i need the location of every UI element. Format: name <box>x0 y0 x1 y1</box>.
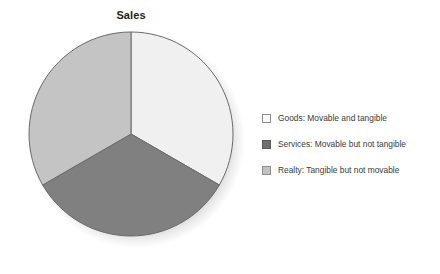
legend-item-realty[interactable]: Realty: Tangible but not movable <box>262 157 438 183</box>
legend-item-services[interactable]: Services: Movable but not tangible <box>262 131 438 157</box>
chart-legend: Goods: Movable and tangible Services: Mo… <box>262 105 438 183</box>
pie-svg <box>20 22 250 254</box>
legend-label-goods: Goods: Movable and tangible <box>278 113 387 124</box>
legend-label-realty: Realty: Tangible but not movable <box>278 165 399 176</box>
legend-item-goods[interactable]: Goods: Movable and tangible <box>262 105 438 131</box>
legend-swatch-goods-icon <box>262 114 271 123</box>
pie-slice-group <box>29 32 233 236</box>
legend-swatch-services-icon <box>262 140 271 149</box>
pie-plot-area <box>20 22 250 254</box>
legend-label-services: Services: Movable but not tangible <box>278 139 406 150</box>
pie-chart-figure: Sales Goods: Movable and tangible Servic… <box>0 0 440 274</box>
chart-title: Sales <box>0 8 262 22</box>
legend-swatch-realty-icon <box>262 166 271 175</box>
